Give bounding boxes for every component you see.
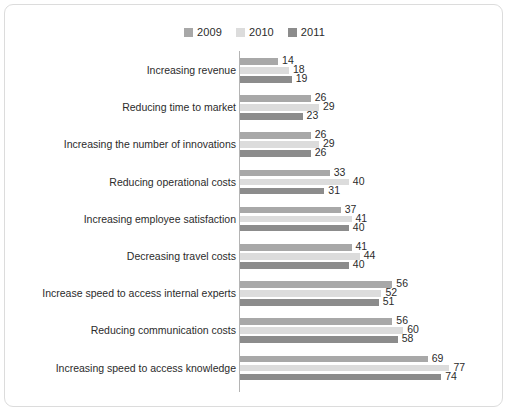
bar-group: Reducing time to market262923 — [5, 94, 504, 125]
bar-group: Reducing communication costs566058 — [5, 317, 504, 348]
legend-label: 2009 — [197, 27, 222, 38]
category-label: Increasing speed to access knowledge — [16, 363, 236, 375]
legend-label: 2011 — [301, 27, 325, 38]
category-label: Decreasing travel costs — [16, 251, 236, 263]
legend-item-2009[interactable]: 2009 — [184, 27, 222, 38]
bar-value-label: 40 — [353, 222, 365, 234]
bar-2010[interactable] — [240, 327, 403, 334]
bar-2009[interactable] — [240, 132, 311, 139]
bar-group: Increase speed to access internal expert… — [5, 280, 504, 311]
bar-group: Decreasing travel costs414440 — [5, 243, 504, 274]
bar-group: Reducing operational costs334031 — [5, 169, 504, 200]
chart-plot-area: Increasing revenue141819Reducing time to… — [5, 49, 504, 399]
category-label: Increase speed to access internal expert… — [16, 288, 236, 300]
bar-2009[interactable] — [240, 95, 311, 102]
bar-2010[interactable] — [240, 253, 360, 260]
bar-value-label: 44 — [364, 250, 376, 262]
bar-value-label: 51 — [383, 296, 395, 308]
bar-2010[interactable] — [240, 290, 381, 297]
category-label: Increasing the number of innovations — [16, 139, 236, 151]
bar-group: Increasing revenue141819 — [5, 57, 504, 88]
bar-2009[interactable] — [240, 281, 392, 288]
legend-item-2011[interactable]: 2011 — [288, 27, 325, 38]
category-label: Reducing operational costs — [16, 177, 236, 189]
bar-value-label: 29 — [323, 101, 335, 113]
legend-label: 2010 — [249, 27, 274, 38]
bar-2011[interactable] — [240, 336, 398, 343]
bar-2010[interactable] — [240, 141, 319, 148]
bar-value-label: 56 — [396, 278, 408, 290]
bar-2009[interactable] — [240, 244, 352, 251]
bar-2010[interactable] — [240, 216, 352, 223]
bar-group: Increasing speed to access knowledge6977… — [5, 355, 504, 386]
bar-2011[interactable] — [240, 188, 324, 195]
bar-2009[interactable] — [240, 318, 392, 325]
bar-value-label: 31 — [328, 185, 340, 197]
category-label: Reducing time to market — [16, 102, 236, 114]
bar-2010[interactable] — [240, 67, 289, 74]
bar-value-label: 23 — [307, 110, 319, 122]
bar-value-label: 40 — [353, 259, 365, 271]
bar-group: Increasing employee satisfaction374140 — [5, 206, 504, 237]
bar-value-label: 40 — [353, 176, 365, 188]
bar-2011[interactable] — [240, 150, 311, 157]
category-label: Increasing employee satisfaction — [16, 214, 236, 226]
bar-2009[interactable] — [240, 170, 330, 177]
legend-swatch-icon — [288, 28, 297, 37]
bar-value-label: 74 — [445, 371, 457, 383]
bar-2011[interactable] — [240, 374, 441, 381]
legend-swatch-icon — [236, 28, 245, 37]
bar-2011[interactable] — [240, 262, 349, 269]
legend-item-2010[interactable]: 2010 — [236, 27, 274, 38]
bar-2009[interactable] — [240, 58, 278, 65]
category-label: Increasing revenue — [16, 65, 236, 77]
bar-group: Increasing the number of innovations2629… — [5, 131, 504, 162]
chart-legend: 200920102011 — [5, 27, 504, 38]
bar-value-label: 69 — [432, 353, 444, 365]
bar-2011[interactable] — [240, 76, 292, 83]
bar-value-label: 58 — [402, 333, 414, 345]
bar-2011[interactable] — [240, 113, 303, 120]
bar-value-label: 19 — [296, 73, 308, 85]
chart-container: 200920102011 Increasing revenue141819Red… — [4, 4, 503, 407]
bar-value-label: 33 — [334, 167, 346, 179]
category-label: Reducing communication costs — [16, 325, 236, 337]
bar-2009[interactable] — [240, 207, 341, 214]
bar-2010[interactable] — [240, 365, 449, 372]
bar-2011[interactable] — [240, 299, 379, 306]
bar-value-label: 26 — [315, 147, 327, 159]
bar-2011[interactable] — [240, 225, 349, 232]
legend-swatch-icon — [184, 28, 193, 37]
bar-2009[interactable] — [240, 356, 428, 363]
